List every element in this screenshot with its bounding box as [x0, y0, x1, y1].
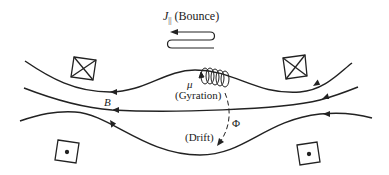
coil-dot-right [297, 142, 320, 165]
diagram-canvas [0, 0, 389, 175]
coil-dot-left [55, 140, 79, 163]
bounce-label: J|| (Bounce) [163, 10, 219, 25]
field-label: B [104, 97, 111, 108]
drift-label: (Drift) [185, 132, 214, 143]
bounce-path [168, 29, 215, 48]
bounce-text: (Bounce) [175, 9, 220, 23]
coil-cross-right [283, 55, 307, 79]
gyration-label: (Gyration) [175, 90, 221, 101]
bounce-subscript: || [168, 16, 171, 25]
phi-label: Φ [232, 118, 240, 129]
coil-cross-left [71, 57, 96, 80]
